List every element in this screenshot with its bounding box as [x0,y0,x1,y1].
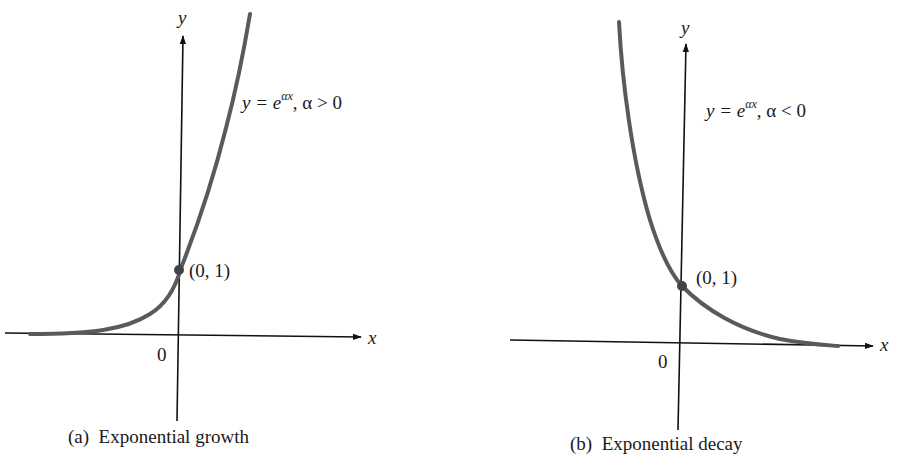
panel-a-caption: (a) Exponential growth [68,427,249,446]
panel-a-equation: y = eαx, α > 0 [242,92,342,112]
panel-a-growth-curve [30,14,250,334]
panel-b-x-axis-label: x [880,335,888,354]
panel-b-decay [510,22,873,430]
panel-a-origin-label: 0 [157,345,167,364]
panel-a-x-axis-label: x [368,328,376,347]
panel-b-point-0-1 [677,281,687,291]
panel-b-caption: (b) Exponential decay [570,434,743,453]
panel-a-y-axis [177,36,183,421]
panel-a-caption-tag: (a) [68,426,89,447]
panel-b-y-axis [678,44,686,430]
figure-canvas [0,0,901,465]
panel-a-point-label: (0, 1) [189,261,230,280]
panel-a-eq-lhs: y = e [242,92,281,113]
panel-a-point-0-1 [174,265,184,275]
panel-a-y-axis-label: y [178,8,186,27]
panel-b-caption-tag: (b) [570,433,592,454]
panel-b-y-axis-label: y [681,18,689,37]
panel-b-decay-curve [619,22,838,346]
panel-a-growth [5,14,361,421]
panel-b-caption-text: Exponential decay [602,433,743,454]
panel-b-eq-exponent: αx [745,97,757,111]
panel-a-eq-exponent: αx [281,89,293,103]
panel-b-eq-rhs: , α < 0 [757,100,806,121]
panel-a-eq-rhs: , α > 0 [293,92,342,113]
panel-b-equation: y = eαx, α < 0 [706,100,806,120]
panel-b-origin-label: 0 [658,352,668,371]
panel-a-caption-text: Exponential growth [99,426,249,447]
panel-b-eq-lhs: y = e [706,100,745,121]
panel-b-point-label: (0, 1) [696,268,737,287]
